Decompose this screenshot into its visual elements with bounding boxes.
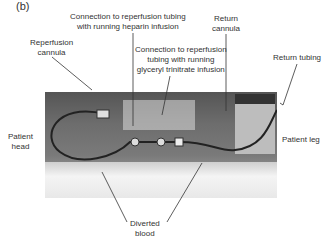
leader-lines <box>0 0 335 245</box>
